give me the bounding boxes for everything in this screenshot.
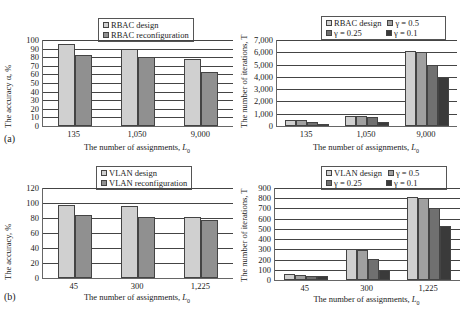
gridline xyxy=(277,52,457,53)
y-axis-label: The number of iterations, T xyxy=(239,188,249,282)
panel-label: (a) xyxy=(4,133,15,144)
plot-area xyxy=(276,40,457,127)
bar xyxy=(306,276,317,280)
legend-label: VLAN design xyxy=(334,168,382,178)
bar xyxy=(405,51,416,126)
bar xyxy=(368,259,379,280)
legend-item: VLAN reconfiguration xyxy=(101,178,187,188)
chart-b-right: VLAN designγ = 0.5γ = 0.25γ = 0.10100200… xyxy=(236,158,472,316)
panel-label: (b) xyxy=(4,291,16,302)
y-tick-label: 100 xyxy=(5,35,39,45)
x-tick-label: 135 xyxy=(286,129,326,139)
legend-label: γ = 0.1 xyxy=(394,28,440,38)
gridline xyxy=(275,198,460,199)
bar xyxy=(427,65,438,126)
legend-label: γ = 0.1 xyxy=(394,178,440,188)
legend-swatch-icon xyxy=(388,170,394,176)
y-axis-label: The accuracy α, % xyxy=(3,65,13,128)
x-tick-label: 45 xyxy=(285,283,325,293)
bar xyxy=(201,220,218,278)
plot-area xyxy=(42,40,233,127)
x-axis-label-sub: 0 xyxy=(416,148,419,154)
bar xyxy=(307,122,318,126)
x-tick-label: 300 xyxy=(347,283,387,293)
legend-swatch-icon xyxy=(326,30,332,36)
legend-swatch-icon xyxy=(101,180,107,186)
legend-label: RBAC design xyxy=(334,18,381,28)
bar xyxy=(296,120,307,126)
gridline xyxy=(277,40,457,41)
y-axis-label: The accuracy, % xyxy=(3,224,13,280)
bar xyxy=(379,270,390,280)
x-tick-label: 9,000 xyxy=(406,129,446,139)
x-axis-label-text: The number of assignments, xyxy=(84,142,182,152)
legend: VLAN designVLAN reconfiguration xyxy=(96,166,192,190)
gridline xyxy=(43,40,233,41)
y-axis-label: The number of iterations, T xyxy=(239,34,249,128)
legend-item: RBAC design xyxy=(103,20,158,30)
bar xyxy=(418,198,429,280)
bar xyxy=(367,117,378,126)
x-tick-label: 45 xyxy=(54,281,94,291)
x-axis-label: The number of assignments, L0 xyxy=(276,142,456,154)
x-axis-label-text: The number of assignments, xyxy=(84,292,182,302)
legend-item: VLAN design xyxy=(101,168,157,178)
bar xyxy=(407,197,418,280)
bar xyxy=(357,250,368,280)
legend-label: RBAC design xyxy=(111,20,158,30)
bar xyxy=(346,249,357,280)
bar xyxy=(285,120,296,126)
chart-a-left: RBAC designRBAC reconfiguration010203040… xyxy=(0,0,236,158)
x-axis-label: The number of assignments, L0 xyxy=(42,292,232,304)
legend-item: VLAN design xyxy=(326,168,382,178)
legend-label: γ = 0.25 xyxy=(334,28,380,38)
plot-area xyxy=(42,188,233,279)
legend-swatch-icon xyxy=(103,32,109,38)
bar xyxy=(75,215,92,278)
bar xyxy=(429,208,440,280)
chart-a-right: RBAC designγ = 0.5γ = 0.25γ = 0.101,0002… xyxy=(236,0,472,158)
gridline xyxy=(275,188,460,189)
legend-label: γ = 0.5 xyxy=(395,18,441,28)
x-tick-label: 1,050 xyxy=(117,129,157,139)
legend-item: γ = 0.5 xyxy=(388,168,442,178)
x-axis-label: The number of assignments, L0 xyxy=(42,142,232,154)
y-tick-label: 80 xyxy=(5,213,39,223)
bar xyxy=(318,124,329,126)
x-tick-label: 1,050 xyxy=(346,129,386,139)
x-axis-label-sub: 0 xyxy=(187,148,190,154)
bar xyxy=(75,55,92,126)
bar xyxy=(295,275,306,280)
bar xyxy=(58,44,75,126)
legend-swatch-icon xyxy=(326,20,332,26)
legend-label: γ = 0.5 xyxy=(396,168,442,178)
x-axis-label-sub: 0 xyxy=(187,298,190,304)
legend-swatch-icon xyxy=(326,170,332,176)
bar xyxy=(317,276,328,280)
legend-label: VLAN design xyxy=(109,168,157,178)
x-tick-label: 1,225 xyxy=(180,281,220,291)
legend-label: γ = 0.25 xyxy=(334,178,380,188)
x-tick-label: 9,000 xyxy=(180,129,220,139)
bar xyxy=(378,122,389,126)
y-tick-label: 80 xyxy=(5,52,39,62)
bar xyxy=(58,205,75,279)
legend: RBAC designγ = 0.5γ = 0.25γ = 0.1 xyxy=(321,16,446,40)
x-tick-label: 135 xyxy=(54,129,94,139)
bar xyxy=(345,116,356,126)
x-axis-label-sub: 0 xyxy=(417,300,420,306)
legend-swatch-icon xyxy=(326,180,332,186)
bar xyxy=(121,49,138,126)
bar xyxy=(201,72,218,126)
legend: VLAN designγ = 0.5γ = 0.25γ = 0.1 xyxy=(321,166,447,190)
gridline xyxy=(43,188,233,189)
bar xyxy=(438,77,449,126)
bar xyxy=(138,217,155,279)
bar xyxy=(184,217,201,278)
y-tick-label: 100 xyxy=(5,198,39,208)
legend-swatch-icon xyxy=(386,30,392,36)
legend-item: γ = 0.5 xyxy=(387,18,441,28)
legend-label: RBAC reconfiguration xyxy=(111,30,189,40)
legend: RBAC designRBAC reconfiguration xyxy=(98,18,194,42)
x-tick-label: 1,225 xyxy=(408,283,448,293)
